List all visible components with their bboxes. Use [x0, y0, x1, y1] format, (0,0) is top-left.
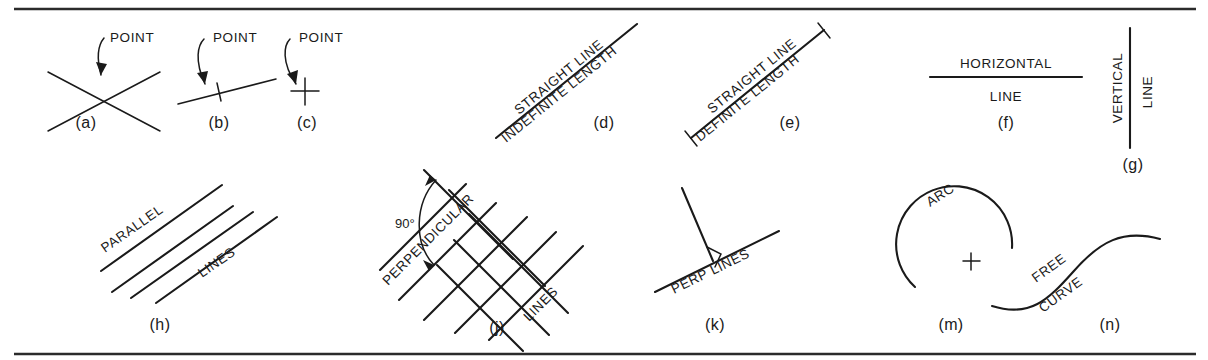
- figure-g-label-right: LINE: [1140, 76, 1155, 108]
- figure-j-label-top: PERPENDICULAR: [380, 191, 477, 288]
- figure-m-arc: [896, 186, 1012, 287]
- figure-d: STRAIGHT LINE INDEFINITE LENGTH (d): [496, 24, 637, 145]
- figure-c-key: (c): [297, 114, 317, 131]
- figure-j-angle-arrow-end: [423, 260, 434, 271]
- figure-m: ARC (m): [896, 180, 1012, 333]
- figure-k-perp-line: [682, 188, 713, 261]
- figure-m-label: ARC: [923, 180, 957, 209]
- figure-e: STRAIGHT LINE DEFINITE LENGTH (e): [685, 23, 830, 146]
- figure-c-label: POINT: [299, 30, 343, 45]
- figure-b-line: [178, 79, 276, 104]
- figure-m-key: (m): [938, 316, 963, 333]
- figure-c: POINT (c): [285, 30, 343, 131]
- figure-j: 90° PERPENDICULAR LINES (j): [380, 170, 583, 351]
- figure-k: PERP LINES (k): [655, 188, 779, 333]
- figure-a-label: POINT: [110, 30, 154, 45]
- figure-g: VERTICAL LINE (g): [1110, 28, 1155, 173]
- figure-b: POINT (b): [178, 30, 276, 131]
- figure-a-leader-arrowhead: [96, 62, 107, 75]
- figure-b-label: POINT: [213, 30, 257, 45]
- figure-a: POINT (a): [48, 30, 160, 131]
- figure-k-key: (k): [705, 316, 725, 333]
- figure-j-key: (j): [489, 319, 504, 336]
- figure-n-label-top: FREE: [1029, 251, 1069, 286]
- figure-j-angle-label: 90°: [395, 216, 415, 231]
- figure-a-key: (a): [76, 114, 97, 131]
- figure-h-key: (h): [150, 316, 171, 333]
- figure-j-angle-arrow-start: [425, 175, 436, 186]
- figure-j-line-a1: [380, 184, 466, 270]
- figure-d-key: (d): [594, 114, 615, 131]
- figure-b-key: (b): [209, 114, 230, 131]
- figure-n: FREE CURVE (n): [992, 236, 1160, 333]
- figure-b-point-tick: [217, 83, 221, 101]
- figure-f: HORIZONTAL LINE (f): [930, 56, 1082, 131]
- figure-b-leader-arrowhead: [197, 71, 208, 84]
- figure-f-key: (f): [998, 114, 1014, 131]
- figure-h-label-top: PARALLEL: [98, 202, 166, 256]
- figure-h: PARALLEL LINES (h): [98, 185, 277, 333]
- figure-g-label-left: VERTICAL: [1110, 53, 1125, 124]
- plate-canvas: POINT (a) POINT (b) POINT (c) STRAIGHT L…: [0, 0, 1208, 360]
- figure-j-label-bottom: LINES: [521, 284, 561, 324]
- figure-e-end-tick-end: [818, 23, 830, 38]
- figure-n-key: (n): [1100, 316, 1121, 333]
- figure-g-key: (g): [1123, 156, 1144, 173]
- figure-f-label-bottom: LINE: [990, 89, 1022, 104]
- figure-n-curve: [992, 236, 1160, 310]
- drawing-plate: POINT (a) POINT (b) POINT (c) STRAIGHT L…: [0, 0, 1208, 360]
- figure-f-label-top: HORIZONTAL: [960, 56, 1052, 71]
- figure-e-key: (e): [780, 114, 801, 131]
